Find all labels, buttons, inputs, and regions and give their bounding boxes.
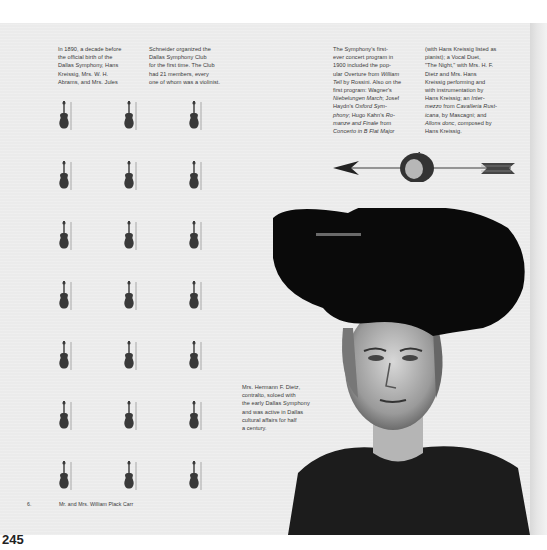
violin-icon	[123, 461, 139, 493]
violin-icon	[58, 161, 74, 193]
carr-caption: Mr. and Mrs. William Plack Carr	[59, 500, 179, 508]
program-text-column-2: (with Hans Kreissig listed as pianist); …	[425, 45, 510, 135]
violin-icon	[188, 401, 204, 433]
violin-icon	[58, 281, 74, 313]
violin-icon	[188, 221, 204, 253]
violin-icon	[188, 281, 204, 313]
violin-icon	[123, 161, 139, 193]
violin-icon	[58, 461, 74, 493]
violin-icon	[188, 161, 204, 193]
portrait-photo	[268, 208, 530, 535]
violin-icon	[123, 101, 139, 133]
violin-icon	[123, 401, 139, 433]
violin-icon	[123, 221, 139, 253]
arrow-apple-icon	[331, 152, 521, 182]
violin-icon	[58, 101, 74, 133]
program-text-column-1: The Symphony's first- ever concert progr…	[333, 45, 413, 135]
violin-icon	[58, 401, 74, 433]
page-spine	[530, 23, 547, 535]
violin-icon	[188, 461, 204, 493]
caption-number: 6.	[27, 500, 31, 508]
violin-icon	[188, 101, 204, 133]
violin-icon	[123, 281, 139, 313]
violin-icon	[188, 341, 204, 373]
page-number: 245	[2, 532, 24, 547]
portrait-caption: Mrs. Hermann F. Dietz, contralto, soloed…	[242, 383, 322, 432]
violin-icon	[123, 341, 139, 373]
violin-icon	[58, 221, 74, 253]
violin-icon	[58, 341, 74, 373]
violin-grid	[0, 0, 260, 520]
